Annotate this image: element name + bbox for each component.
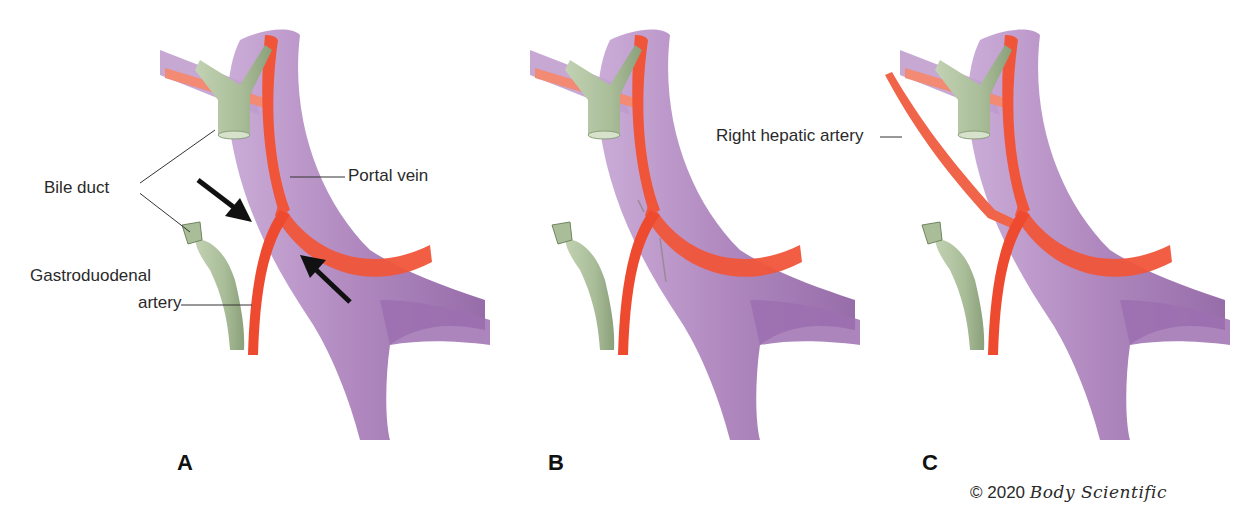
label-bile-duct: Bile duct (44, 178, 109, 198)
panel-a-illustration (140, 0, 560, 470)
copyright-brand: Body Scientific (1030, 482, 1167, 502)
figure-canvas: Bile duct Portal vein Gastroduodenal art… (0, 0, 1246, 525)
panel-letter-c: C (922, 450, 938, 476)
copyright-notice: © 2020 Body Scientific (970, 482, 1167, 503)
panel-b: B (510, 0, 930, 470)
bile-duct-lower-stump (195, 238, 244, 350)
panel-letter-a: A (177, 450, 193, 476)
label-gastroduodenal: Gastroduodenal (30, 266, 151, 286)
copyright-year: © 2020 (970, 483, 1025, 502)
bile-duct-ligature-tie (552, 222, 572, 244)
bile-duct-ligature-tie (922, 222, 942, 244)
bile-duct-leader-upper (140, 130, 215, 188)
label-portal-vein: Portal vein (348, 166, 428, 186)
panel-a: Bile duct Portal vein Gastroduodenal art… (140, 0, 560, 470)
panel-letter-b: B (548, 450, 564, 476)
panel-c-illustration (880, 0, 1246, 470)
bile-duct-upper-opening (218, 131, 250, 139)
label-right-hepatic-artery: Right hepatic artery (716, 126, 863, 146)
bile-duct-lower-stump (935, 238, 984, 350)
bile-duct-lower-stump (565, 238, 614, 350)
panel-b-illustration (510, 0, 930, 470)
bile-duct-upper-opening (958, 131, 990, 139)
panel-c: Right hepatic artery C (880, 0, 1246, 470)
label-artery: artery (138, 293, 181, 313)
bile-duct-upper-opening (588, 131, 620, 139)
bile-duct-ligature-tie (182, 222, 202, 244)
